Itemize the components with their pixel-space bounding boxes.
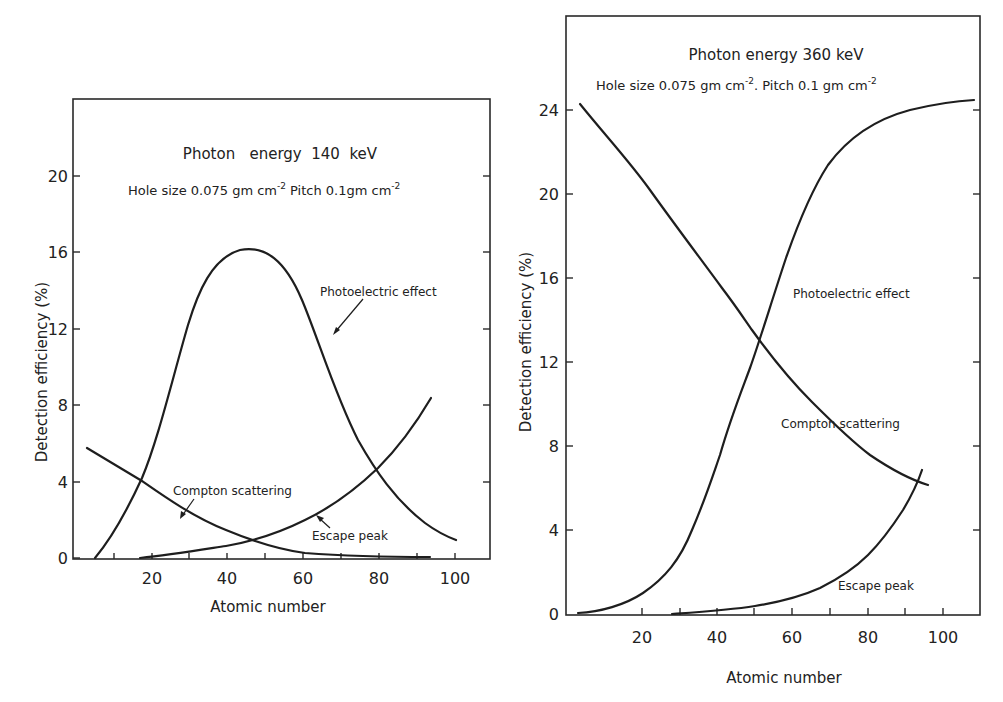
y-tick-label: 16 <box>48 243 68 262</box>
annotation-escape: Escape peak <box>838 579 914 593</box>
x-tick-label: 80 <box>369 569 389 588</box>
y-tick-label: 24 <box>539 101 559 120</box>
y-axis-label: Detection efficiency (%) <box>33 282 51 462</box>
y-tick-label: 20 <box>48 167 68 186</box>
y-tick-label: 16 <box>539 269 559 288</box>
curve-photoelectric <box>578 100 974 613</box>
annotation-compton: Compton scattering <box>173 484 292 498</box>
x-tick-label: 100 <box>440 569 471 588</box>
x-tick-label: 60 <box>782 628 802 647</box>
annotation-compton: Compton scattering <box>781 417 900 431</box>
plot-frame <box>566 16 980 615</box>
x-tick-label: 40 <box>217 569 237 588</box>
x-tick-label: 20 <box>632 628 652 647</box>
x-tick-label: 40 <box>707 628 727 647</box>
y-tick-label: 8 <box>549 437 559 456</box>
y-tick-label: 0 <box>58 549 68 568</box>
x-tick-label: 60 <box>293 569 313 588</box>
chart-subtitle: Hole size 0.075 gm cm-2Pitch 0.1gm cm-2 <box>128 181 400 198</box>
chart-title: Photon energy 140 keV <box>183 145 378 163</box>
x-axis-label: Atomic number <box>210 598 326 616</box>
y-axis-label: Detection efficiency (%) <box>517 252 535 432</box>
x-axis-label: Atomic number <box>726 669 842 687</box>
chart-140kev: 0 4 8 12 16 20 20 40 60 80 100 Atomic nu… <box>33 99 490 616</box>
y-tick-label: 0 <box>549 605 559 624</box>
y-tick-label: 4 <box>58 473 68 492</box>
annotation-photoelectric: Photoelectric effect <box>793 287 910 301</box>
figure-canvas: 0 4 8 12 16 20 20 40 60 80 100 Atomic nu… <box>0 0 1003 702</box>
y-tick-label: 12 <box>539 353 559 372</box>
y-tick-label: 4 <box>549 521 559 540</box>
y-ticks <box>73 176 490 558</box>
annotation-photoelectric: Photoelectric effect <box>320 285 437 299</box>
chart-subtitle: Hole size 0.075 gm cm-2. Pitch 0.1 gm cm… <box>596 76 877 93</box>
chart-title: Photon energy 360 keV <box>688 46 864 64</box>
leader-arrow <box>336 299 363 331</box>
x-tick-label: 20 <box>142 569 162 588</box>
y-ticks <box>566 110 980 530</box>
y-tick-label: 20 <box>539 185 559 204</box>
y-tick-label: 8 <box>58 396 68 415</box>
chart-360kev: 0 4 8 12 16 20 24 20 40 60 80 100 Atomic… <box>517 16 980 687</box>
annotation-escape: Escape peak <box>312 529 388 543</box>
x-tick-label: 80 <box>858 628 878 647</box>
x-tick-label: 100 <box>928 628 959 647</box>
